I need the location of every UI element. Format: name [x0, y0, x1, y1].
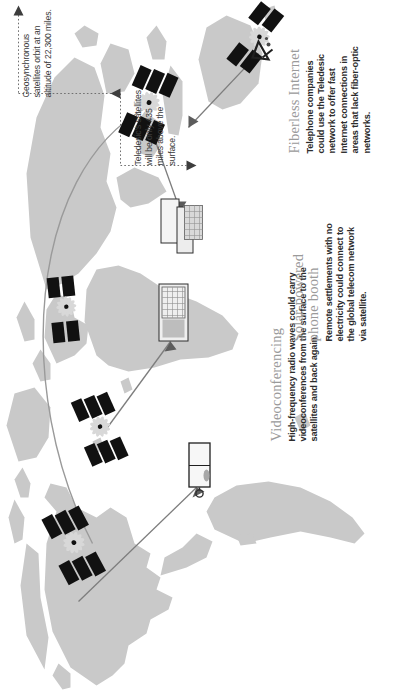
- ground-station-internet: [160, 191, 204, 253]
- note-teledesic-orbit: Teledesic's satellites will be only 435 …: [132, 87, 177, 165]
- callout-body: Telephone companies could use the Telede…: [304, 41, 372, 153]
- beam-video-arrow: [164, 341, 176, 351]
- callout-body: Remote settlements with no electricity c…: [323, 221, 369, 341]
- satellite-dish-hub: [54, 294, 78, 318]
- rotated-canvas: Videoconferencing High-frequency radio w…: [0, 0, 409, 693]
- satellite-dish-hub: [86, 412, 114, 440]
- beam-dish-arrow: [188, 115, 198, 127]
- callout-title: Videoconferencing: [268, 261, 283, 441]
- teledesic-altitude-arrow-up: [110, 88, 120, 98]
- callout-title: Fiberless Internet: [286, 41, 301, 153]
- note-geosynchronous-orbit: Geosynchronous satellites orbit at an al…: [20, 1, 54, 97]
- callout-solar-powered-phone-booth: Solar-powered phone booth Remote settlem…: [290, 221, 368, 341]
- teledesic-satellite-network-infographic: Videoconferencing High-frequency radio w…: [0, 0, 409, 693]
- callout-fiberless-internet: Fiberless Internet Telephone companies c…: [286, 41, 372, 153]
- teledesic-altitude-arrow-down: [186, 160, 196, 170]
- callout-title: Solar-powered phone booth: [290, 221, 320, 341]
- ground-station-videoconference: [158, 283, 188, 341]
- dish-antenna: [246, 33, 276, 63]
- satellite-3: [37, 271, 95, 344]
- phone-booth: [186, 441, 212, 497]
